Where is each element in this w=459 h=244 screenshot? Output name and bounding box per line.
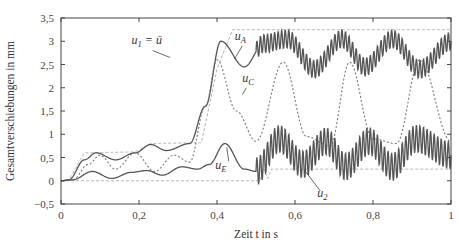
x-tick-label: 0,2 xyxy=(132,209,146,221)
y-tick-label: −0,5 xyxy=(34,198,54,210)
y-tick-label: 0 xyxy=(49,175,55,187)
y-tick-label: 2,5 xyxy=(40,59,54,71)
x-tick-label: 1 xyxy=(448,209,454,221)
x-tick-label: 0 xyxy=(58,209,64,221)
series-layer xyxy=(61,30,451,185)
leader-line xyxy=(242,88,246,95)
x-tick-label: 0,8 xyxy=(366,209,380,221)
y-tick-label: 1 xyxy=(49,128,55,140)
leader-line xyxy=(235,46,243,59)
y-tick-label: 3 xyxy=(49,35,55,47)
y-tick-label: 0,5 xyxy=(40,152,54,164)
y-tick-label: 1,5 xyxy=(40,105,54,117)
y-tick-label: 2 xyxy=(49,82,55,94)
label-uc: uC xyxy=(242,71,254,87)
leader-line xyxy=(227,147,229,161)
y-tick-label: 3,5 xyxy=(40,12,54,24)
y-axis-title: Gesamtverschiebungen in mm xyxy=(4,41,17,181)
x-axis-title: Zeit t in s xyxy=(234,228,278,240)
leader-line xyxy=(153,51,171,58)
x-tick-label: 0,6 xyxy=(288,209,302,221)
series-ue xyxy=(61,125,451,184)
leader-line xyxy=(305,171,321,191)
label-u1: u1 = ū xyxy=(132,33,162,49)
label-ua: uA xyxy=(235,29,247,45)
displacement-chart: 00,20,40,60,81−0,500,511,522,533,5 u1 = … xyxy=(0,0,459,244)
label-ue: uE xyxy=(215,158,227,174)
x-tick-label: 0,4 xyxy=(210,209,224,221)
